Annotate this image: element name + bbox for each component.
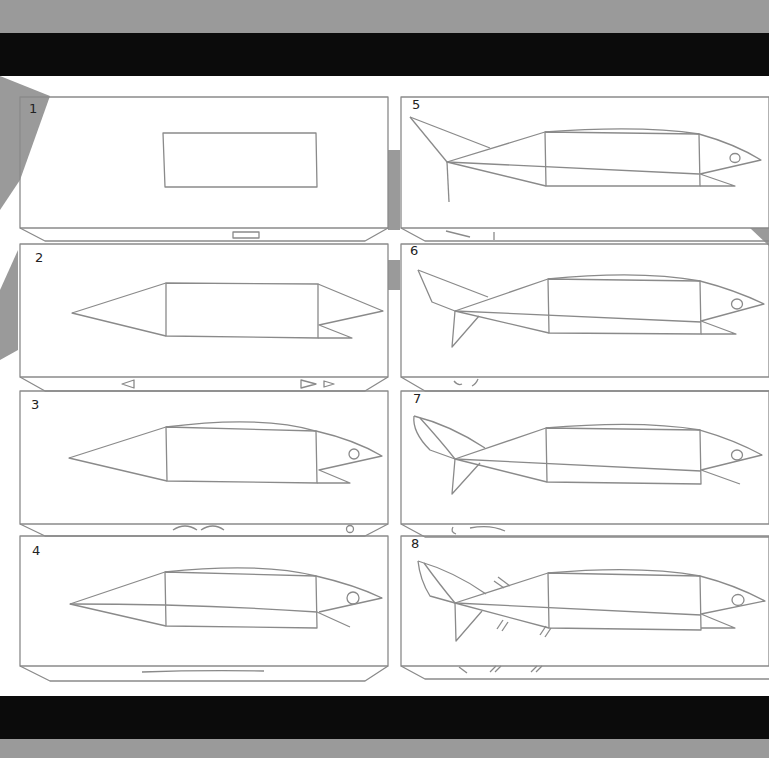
step-number-3: 3 [31, 397, 39, 412]
step-number-7: 7 [413, 391, 421, 406]
step-number-8: 8 [411, 536, 419, 551]
shadow-shape [388, 260, 400, 290]
panel-7 [401, 391, 769, 537]
panel-2 [20, 244, 388, 391]
panel-1 [20, 97, 388, 241]
panel-3 [20, 391, 388, 536]
step-number-2: 2 [35, 250, 43, 265]
shadow-shape [0, 250, 18, 360]
panel-5 [401, 97, 769, 241]
shadow-shape [0, 76, 50, 210]
panel-8 [401, 536, 769, 679]
panel-6 [401, 244, 769, 391]
step-number-6: 6 [410, 243, 418, 258]
step-panels: 1 2 3 4 5 6 7 8 [0, 0, 769, 758]
shadow-shape [750, 228, 769, 246]
panel-4 [20, 536, 388, 681]
step-number-5: 5 [412, 97, 420, 112]
shadow-shape [388, 150, 400, 230]
step-number-4: 4 [32, 543, 40, 558]
step-number-1: 1 [29, 101, 37, 116]
